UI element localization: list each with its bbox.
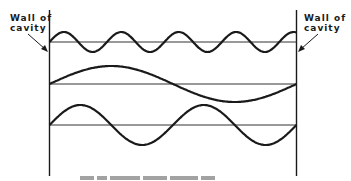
right-wall-label-line2: cavity <box>304 24 346 33</box>
left-wall-label-line1: Wall of <box>10 14 52 23</box>
right-arrow-icon <box>298 34 318 52</box>
left-wall-label: Wall of cavity <box>10 14 52 33</box>
figure-caption-cutoff <box>80 176 280 181</box>
right-wall-label-line1: Wall of <box>304 14 346 23</box>
cavity-diagram <box>0 0 351 181</box>
left-arrow-icon <box>28 34 48 52</box>
left-wall-label-line2: cavity <box>10 24 52 33</box>
right-wall-label: Wall of cavity <box>304 14 346 33</box>
